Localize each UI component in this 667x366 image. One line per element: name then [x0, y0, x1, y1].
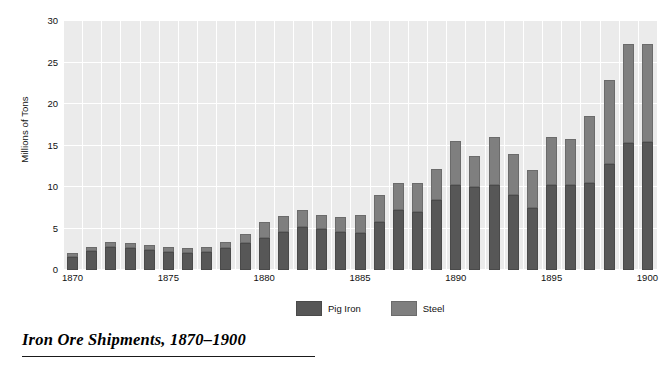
bar-segment-steel — [355, 215, 366, 232]
gridline-horizontal — [63, 103, 657, 104]
gridline-vertical — [465, 21, 466, 270]
bar-segment-steel — [335, 217, 346, 232]
bar-1883 — [316, 215, 327, 270]
bar-segment-pig-iron — [450, 185, 461, 270]
bar-segment-pig-iron — [201, 252, 212, 270]
bar-segment-steel — [278, 216, 289, 232]
bar-1879 — [240, 234, 251, 270]
bar-segment-pig-iron — [642, 142, 653, 270]
x-tick-label-1870: 1870 — [53, 272, 93, 283]
bar-segment-steel — [642, 44, 653, 142]
x-tick-label-1880: 1880 — [244, 272, 284, 283]
bar-1894 — [527, 170, 538, 270]
bar-1889 — [431, 169, 442, 270]
gridline-vertical — [82, 21, 83, 270]
gridline-vertical — [561, 21, 562, 270]
gridline-vertical — [63, 21, 64, 270]
bar-1875 — [163, 247, 174, 270]
chart-caption: Iron Ore Shipments, 1870–1900 — [22, 330, 246, 350]
gridline-vertical — [350, 21, 351, 270]
gridline-vertical — [580, 21, 581, 270]
bar-segment-pig-iron — [412, 212, 423, 270]
bar-1880 — [259, 222, 270, 270]
gridline-vertical — [408, 21, 409, 270]
bar-segment-steel — [584, 116, 595, 182]
bar-segment-pig-iron — [546, 185, 557, 270]
bar-segment-steel — [565, 139, 576, 185]
bar-1890 — [450, 141, 461, 270]
bar-segment-pig-iron — [584, 183, 595, 270]
bar-segment-pig-iron — [105, 247, 116, 270]
gridline-vertical — [504, 21, 505, 270]
gridline-horizontal — [63, 20, 657, 21]
bar-segment-pig-iron — [393, 210, 404, 270]
bar-1900 — [642, 44, 653, 270]
bar-segment-pig-iron — [67, 257, 78, 270]
gridline-vertical — [657, 21, 658, 270]
bar-segment-steel — [489, 137, 500, 185]
steel-swatch — [391, 301, 417, 316]
gridline-horizontal — [63, 62, 657, 63]
bar-segment-steel — [450, 141, 461, 185]
bar-segment-pig-iron — [431, 200, 442, 270]
bar-segment-pig-iron — [508, 195, 519, 270]
gridline-vertical — [542, 21, 543, 270]
gridline-vertical — [523, 21, 524, 270]
gridline-vertical — [197, 21, 198, 270]
y-tick-label-30: 30 — [36, 16, 58, 26]
bar-segment-pig-iron — [335, 232, 346, 270]
x-tick-label-1885: 1885 — [340, 272, 380, 283]
bar-segment-pig-iron — [604, 164, 615, 270]
y-tick-label-5: 5 — [36, 224, 58, 234]
bar-segment-pig-iron — [220, 248, 231, 270]
x-tick-label-1895: 1895 — [532, 272, 572, 283]
y-axis-label: Millions of Tons — [19, 70, 30, 190]
gridline-vertical — [159, 21, 160, 270]
bar-1870 — [67, 253, 78, 270]
y-tick-label-15: 15 — [36, 141, 58, 151]
gridline-vertical — [274, 21, 275, 270]
x-axis-ticks: 1870187518801885189018951900 — [63, 272, 657, 288]
bar-segment-pig-iron — [565, 185, 576, 270]
bar-segment-steel — [546, 137, 557, 185]
x-tick-label-1890: 1890 — [436, 272, 476, 283]
bar-segment-steel — [623, 44, 634, 143]
bar-segment-steel — [240, 234, 251, 243]
bar-1872 — [105, 242, 116, 270]
chart-legend: Pig IronSteel — [296, 300, 444, 316]
y-axis-ticks: 051015202530 — [32, 21, 58, 270]
bar-segment-pig-iron — [259, 238, 270, 270]
bar-1878 — [220, 242, 231, 270]
gridline-vertical — [600, 21, 601, 270]
gridline-vertical — [389, 21, 390, 270]
legend-entry-steel: Steel — [391, 301, 445, 316]
bar-segment-pig-iron — [278, 232, 289, 270]
bar-1874 — [144, 245, 155, 270]
bar-1896 — [565, 139, 576, 270]
bar-segment-steel — [393, 183, 404, 210]
bar-segment-pig-iron — [240, 243, 251, 270]
legend-label: Steel — [423, 303, 445, 314]
y-tick-label-25: 25 — [36, 58, 58, 68]
legend-label: Pig Iron — [328, 303, 361, 314]
gridline-vertical — [216, 21, 217, 270]
bar-1885 — [355, 215, 366, 270]
bar-1886 — [374, 195, 385, 270]
x-tick-label-1875: 1875 — [148, 272, 188, 283]
bar-1882 — [297, 210, 308, 270]
gridline-vertical — [427, 21, 428, 270]
gridline-vertical — [331, 21, 332, 270]
bar-1888 — [412, 183, 423, 270]
pig-iron-swatch — [296, 301, 322, 316]
bar-1893 — [508, 154, 519, 270]
y-tick-label-20: 20 — [36, 99, 58, 109]
bar-1873 — [125, 243, 136, 270]
bar-segment-pig-iron — [182, 253, 193, 270]
chart-figure: Millions of Tons 051015202530 1870187518… — [0, 0, 667, 366]
bar-segment-pig-iron — [489, 185, 500, 270]
gridline-vertical — [619, 21, 620, 270]
gridline-vertical — [312, 21, 313, 270]
bar-segment-pig-iron — [374, 222, 385, 270]
bar-1871 — [86, 247, 97, 270]
bar-segment-pig-iron — [144, 250, 155, 270]
